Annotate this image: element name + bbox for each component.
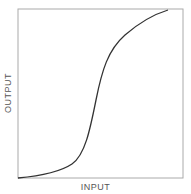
y-axis-label: OUTPUT xyxy=(3,63,13,123)
x-axis-label: INPUT xyxy=(0,182,191,192)
s-curve xyxy=(18,10,168,178)
chart-plot xyxy=(0,0,191,194)
plot-frame xyxy=(18,9,183,178)
